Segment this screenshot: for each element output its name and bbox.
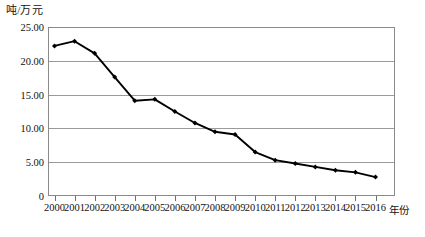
data-point-2011 <box>273 158 278 163</box>
series-line-path <box>55 41 376 177</box>
data-series-layer <box>0 0 425 237</box>
data-point-2015 <box>353 170 358 175</box>
data-point-2014 <box>333 168 338 173</box>
data-point-2012 <box>293 161 298 166</box>
data-point-2000 <box>52 43 57 48</box>
data-point-2016 <box>373 175 378 180</box>
data-point-2013 <box>313 164 318 169</box>
line-chart: 吨/万元 05.0010.0015.0020.0025.00 200020012… <box>0 0 425 237</box>
